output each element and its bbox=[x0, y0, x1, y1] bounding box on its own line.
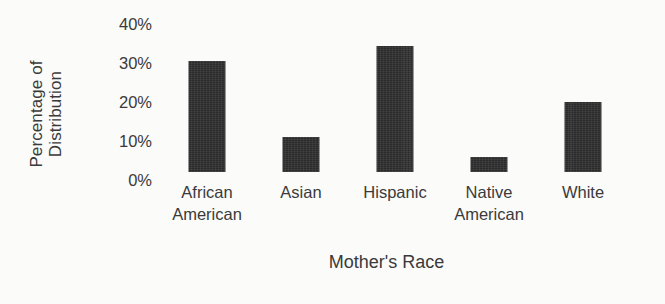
x-axis-title-text: Mother's Race bbox=[221, 252, 444, 272]
x-axis-tick-label-line: American bbox=[454, 204, 524, 226]
x-axis-tick-label: NativeAmerican bbox=[454, 182, 524, 226]
x-axis-tick-labels: AfricanAmericanAsianHispanicNativeAmeric… bbox=[160, 182, 630, 234]
y-axis-tick-labels: 40%30%20%10%0% bbox=[96, 24, 152, 180]
bar-slot bbox=[348, 24, 442, 172]
bar-slot bbox=[442, 24, 536, 172]
x-axis-tick-label-line: American bbox=[172, 204, 242, 226]
x-axis-tick-label: White bbox=[562, 182, 604, 204]
y-axis-title: Percentage of Distribution bbox=[20, 24, 72, 204]
x-axis-tick-label: Asian bbox=[280, 182, 321, 204]
x-axis-title: Mother's Race bbox=[0, 252, 665, 273]
y-axis-tick-label: 40% bbox=[96, 15, 152, 34]
x-axis-tick-label: Hispanic bbox=[363, 182, 426, 204]
plot-area bbox=[160, 24, 630, 172]
x-axis-tick-label-line: Native bbox=[454, 182, 524, 204]
bar-slot bbox=[536, 24, 630, 172]
y-axis-tick-label: 10% bbox=[96, 132, 152, 151]
x-axis-tick-label-line: Hispanic bbox=[363, 182, 426, 204]
bar-chart-figure: Percentage of Distribution 40%30%20%10%0… bbox=[0, 0, 665, 304]
bar[interactable] bbox=[565, 102, 602, 172]
x-axis-tick-label: AfricanAmerican bbox=[172, 182, 242, 226]
bar-slot bbox=[254, 24, 348, 172]
bar[interactable] bbox=[471, 157, 508, 172]
y-axis-title-line-2: Distribution bbox=[46, 71, 65, 157]
y-axis-tick-label: 0% bbox=[96, 171, 152, 190]
bar-slot bbox=[160, 24, 254, 172]
bar[interactable] bbox=[377, 46, 414, 172]
bar[interactable] bbox=[283, 137, 320, 172]
y-axis-title-line-1: Percentage of bbox=[27, 60, 46, 167]
bar[interactable] bbox=[189, 61, 226, 172]
x-axis-tick-label-line: White bbox=[562, 182, 604, 204]
x-axis-tick-label-line: African bbox=[172, 182, 242, 204]
y-axis-tick-label: 20% bbox=[96, 93, 152, 112]
y-axis-tick-label: 30% bbox=[96, 54, 152, 73]
x-axis-tick-label-line: Asian bbox=[280, 182, 321, 204]
